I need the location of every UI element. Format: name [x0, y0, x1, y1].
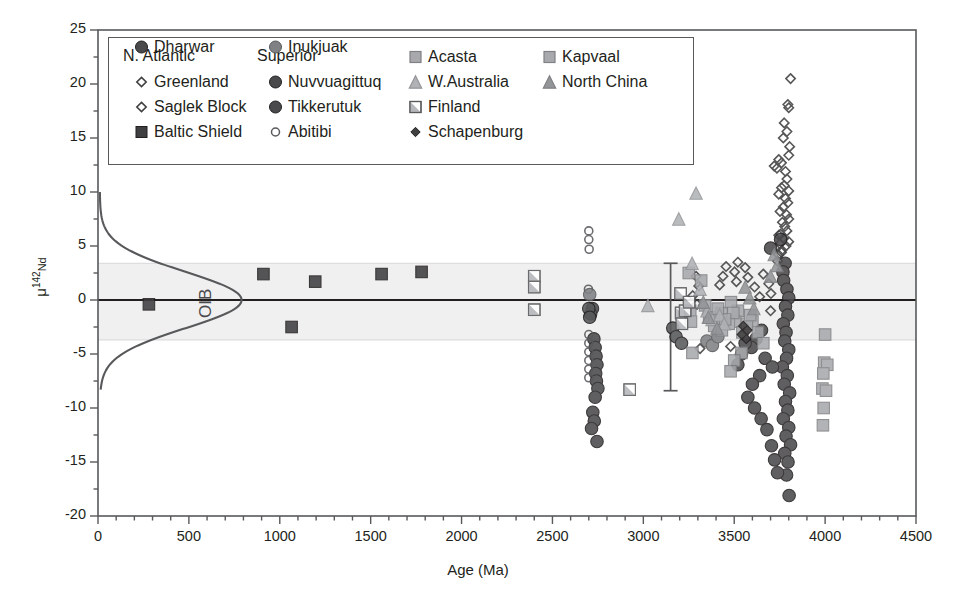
- legend-item-kapvaal[interactable]: Kapvaal: [541, 48, 620, 65]
- x-tick-3000: 3000: [608, 528, 678, 544]
- legend-item-schapenburg[interactable]: Schapenburg: [407, 123, 523, 140]
- legend-item-label: Baltic Shield: [154, 124, 242, 140]
- x-tick-4500: 4500: [881, 528, 951, 544]
- figure-container: OIB -20-15-10-50510152025 05001000150020…: [0, 0, 956, 603]
- legend-item-label: Abitibi: [288, 124, 332, 140]
- y-tick--10: -10: [40, 398, 86, 414]
- legend: N. AtlanticGreenlandSaglek BlockBaltic S…: [108, 37, 694, 165]
- diamond-filled-dark-icon: [407, 123, 424, 140]
- x-tick-500: 500: [154, 528, 224, 544]
- y-tick--5: -5: [40, 344, 86, 360]
- x-tick-0: 0: [63, 528, 133, 544]
- legend-item-label: North China: [562, 74, 647, 90]
- legend-item-label: Schapenburg: [428, 124, 523, 140]
- legend-item-label: Acasta: [428, 49, 477, 65]
- x-axis-title: Age (Ma): [0, 561, 956, 578]
- legend-item-dharwar[interactable]: Dharwar: [133, 38, 214, 55]
- x-tick-1000: 1000: [245, 528, 315, 544]
- legend-item-north-china[interactable]: North China: [541, 73, 647, 90]
- legend-item-label: Greenland: [154, 74, 229, 90]
- x-tick-2500: 2500: [517, 528, 587, 544]
- legend-item-label: Saglek Block: [154, 99, 247, 115]
- legend-item-label: Nuvvuagittuq: [288, 74, 381, 90]
- y-tick--20: -20: [40, 506, 86, 522]
- legend-item-w-australia[interactable]: W.Australia: [407, 73, 509, 90]
- oib-annotation: OIB: [196, 289, 215, 318]
- y-axis-title: μ142Nd: [31, 217, 49, 337]
- triangle-filled-gray-icon: [541, 73, 558, 90]
- caption-strip: [0, 588, 956, 603]
- legend-item-label: W.Australia: [428, 74, 509, 90]
- diamond-open-icon: [133, 98, 150, 115]
- y-tick-10: 10: [40, 182, 86, 198]
- y-tick-15: 15: [40, 128, 86, 144]
- circle-filled-gray-icon: [267, 38, 284, 55]
- y-axis-title-mu: μ: [32, 288, 49, 297]
- y-axis-title-superscript: 142: [31, 271, 42, 288]
- legend-item-tikkerutuk[interactable]: Tikkerutuk: [267, 98, 361, 115]
- circle-filled-dark-icon: [267, 98, 284, 115]
- circle-open-icon: [267, 123, 284, 140]
- svg-text:OIB: OIB: [196, 289, 215, 318]
- diamond-open-icon: [133, 73, 150, 90]
- legend-item-label: Tikkerutuk: [288, 99, 361, 115]
- legend-item-acasta[interactable]: Acasta: [407, 48, 477, 65]
- x-tick-1500: 1500: [336, 528, 406, 544]
- x-tick-3500: 3500: [699, 528, 769, 544]
- legend-item-label: Inukjuak: [288, 39, 348, 55]
- y-tick-25: 25: [40, 20, 86, 36]
- y-tick-20: 20: [40, 74, 86, 90]
- circle-filled-dark-icon: [133, 38, 150, 55]
- legend-item-saglek-block[interactable]: Saglek Block: [133, 98, 247, 115]
- x-tick-2000: 2000: [427, 528, 497, 544]
- square-half-icon: [407, 98, 424, 115]
- y-tick--15: -15: [40, 452, 86, 468]
- legend-item-inukjuak[interactable]: Inukjuak: [267, 38, 348, 55]
- legend-item-label: Dharwar: [154, 39, 214, 55]
- legend-item-label: Finland: [428, 99, 480, 115]
- triangle-filled-light-icon: [407, 73, 424, 90]
- legend-item-nuvvuagittuq[interactable]: Nuvvuagittuq: [267, 73, 381, 90]
- circle-filled-dark-icon: [267, 73, 284, 90]
- legend-item-abitibi[interactable]: Abitibi: [267, 123, 332, 140]
- legend-item-finland[interactable]: Finland: [407, 98, 480, 115]
- square-filled-gray-icon: [541, 48, 558, 65]
- x-tick-4000: 4000: [790, 528, 860, 544]
- square-filled-gray-icon: [407, 48, 424, 65]
- legend-item-greenland[interactable]: Greenland: [133, 73, 229, 90]
- legend-item-label: Kapvaal: [562, 49, 620, 65]
- y-axis-title-nd: Nd: [36, 257, 48, 271]
- legend-item-baltic-shield[interactable]: Baltic Shield: [133, 123, 242, 140]
- square-filled-dark-icon: [133, 123, 150, 140]
